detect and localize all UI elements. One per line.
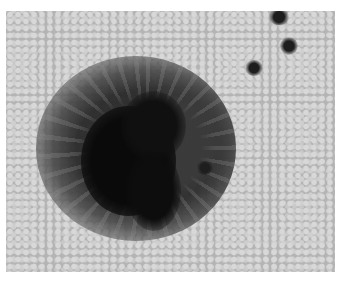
pore-3 — [245, 60, 263, 76]
pore-2 — [280, 37, 298, 55]
pore-4 — [196, 161, 214, 175]
sunspot-photo — [6, 11, 335, 272]
umbra-lower — [126, 151, 181, 231]
pore-1 — [268, 11, 290, 25]
